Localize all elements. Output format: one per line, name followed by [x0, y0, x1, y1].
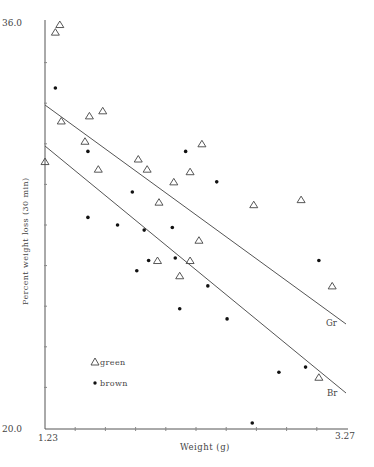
green-point — [81, 138, 89, 145]
green-point — [155, 199, 163, 206]
green-point — [56, 21, 64, 28]
green-point — [154, 257, 162, 264]
regression-line-green — [45, 105, 346, 324]
brown-point — [277, 370, 281, 374]
brown-point — [317, 259, 321, 263]
brown-point — [86, 150, 90, 154]
green-point — [315, 374, 323, 381]
brown-point — [304, 365, 308, 369]
y-axis-title: Percent weight loss (30 min) — [21, 178, 30, 305]
green-point — [51, 29, 59, 36]
brown-point — [116, 223, 120, 227]
brown-point — [250, 421, 254, 425]
green-point — [328, 282, 336, 289]
x-max-label: 3.27 — [335, 431, 355, 441]
brown-point — [184, 150, 188, 154]
line-label-green: Gr — [326, 318, 338, 328]
green-point — [134, 156, 142, 163]
y-max-label: 36.0 — [2, 18, 22, 28]
green-point — [195, 237, 203, 244]
legend-triangle-icon — [91, 358, 99, 365]
green-point — [250, 201, 258, 208]
x-min-label: 1.23 — [38, 433, 58, 443]
brown-point — [86, 216, 90, 220]
scatter-chart: 36.0 20.0 1.23 3.27 Weight (g) Percent w… — [0, 0, 374, 467]
brown-point — [147, 259, 151, 263]
brown-point — [171, 226, 175, 230]
legend-label-green: green — [100, 358, 126, 367]
brown-point — [173, 256, 177, 260]
y-min-label: 20.0 — [2, 424, 22, 434]
brown-point — [131, 190, 135, 194]
brown-point — [142, 228, 146, 232]
line-label-brown: Br — [327, 388, 338, 398]
brown-point — [215, 180, 219, 184]
green-point — [143, 166, 151, 173]
green-point — [99, 107, 107, 114]
brown-point — [206, 284, 210, 288]
data-points — [41, 21, 336, 425]
legend: green brown — [91, 358, 128, 388]
brown-point — [135, 269, 139, 273]
brown-point — [178, 307, 182, 311]
axis-ticks — [44, 63, 317, 431]
legend-dot-icon — [93, 381, 96, 384]
green-point — [198, 140, 206, 147]
green-point — [176, 272, 184, 279]
green-point — [170, 178, 178, 185]
green-point — [186, 168, 194, 175]
green-point — [85, 112, 93, 119]
x-axis-title: Weight (g) — [180, 442, 230, 452]
green-point — [94, 166, 102, 173]
brown-point — [225, 317, 229, 321]
green-point — [297, 196, 305, 203]
regression-line-brown — [45, 146, 346, 393]
brown-point — [54, 86, 58, 90]
legend-label-brown: brown — [100, 379, 128, 388]
